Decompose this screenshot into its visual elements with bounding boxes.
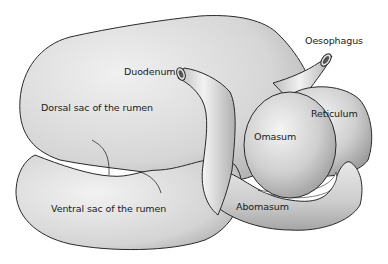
label-ventral-sac: Ventral sac of the rumen — [51, 203, 166, 214]
label-abomasum: Abomasum — [236, 201, 289, 212]
label-duodenum: Duodenum — [124, 66, 176, 77]
label-dorsal-sac: Dorsal sac of the rumen — [41, 102, 153, 113]
label-oesophagus: Oesophagus — [305, 35, 363, 46]
label-reticulum: Reticulum — [311, 108, 358, 119]
label-omasum: Omasum — [254, 131, 296, 142]
